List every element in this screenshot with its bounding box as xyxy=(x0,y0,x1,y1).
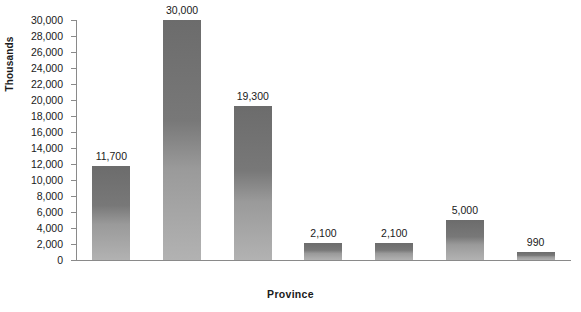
y-tick-label: 4,000 xyxy=(37,222,63,234)
y-tick-label: 6,000 xyxy=(37,206,63,218)
y-tick-label: 18,000 xyxy=(31,110,63,122)
bar-value-label: 30,000 xyxy=(166,4,198,16)
y-tick: 10,000 xyxy=(71,180,76,181)
x-axis-title: Province xyxy=(0,288,581,300)
y-tick-label: 0 xyxy=(57,254,63,266)
y-tick: 6,000 xyxy=(71,212,76,213)
y-tick-label: 2,000 xyxy=(37,238,63,250)
y-axis-line xyxy=(76,20,77,260)
y-tick: 22,000 xyxy=(71,84,76,85)
y-tick-label: 28,000 xyxy=(31,30,63,42)
y-tick-label: 22,000 xyxy=(31,78,63,90)
bar[interactable] xyxy=(163,20,201,260)
plot-area: 02,0004,0006,0008,00010,00012,00014,0001… xyxy=(76,20,571,260)
y-axis-title: Thousands xyxy=(4,4,15,124)
bar-value-label: 990 xyxy=(527,236,545,248)
y-tick: 14,000 xyxy=(71,148,76,149)
bar-chart: Thousands 02,0004,0006,0008,00010,00012,… xyxy=(0,0,581,312)
y-tick: 8,000 xyxy=(71,196,76,197)
y-tick-label: 16,000 xyxy=(31,126,63,138)
bar-value-label: 19,300 xyxy=(237,90,269,102)
y-tick: 18,000 xyxy=(71,116,76,117)
bar-value-label: 11,700 xyxy=(96,150,127,162)
y-tick-label: 10,000 xyxy=(31,174,63,186)
y-tick: 12,000 xyxy=(71,164,76,165)
y-tick-label: 26,000 xyxy=(31,46,63,58)
bar[interactable] xyxy=(375,243,413,260)
bar-value-label: 2,100 xyxy=(381,227,407,239)
bar[interactable] xyxy=(92,166,130,260)
y-tick: 4,000 xyxy=(71,228,76,229)
bar[interactable] xyxy=(446,220,484,260)
y-tick: 30,000 xyxy=(71,20,76,21)
y-tick: 26,000 xyxy=(71,52,76,53)
y-tick-label: 30,000 xyxy=(31,14,63,26)
y-tick-label: 14,000 xyxy=(31,142,63,154)
x-axis-line xyxy=(76,260,571,261)
y-tick: 2,000 xyxy=(71,244,76,245)
y-tick-label: 20,000 xyxy=(31,94,63,106)
y-tick-label: 8,000 xyxy=(37,190,63,202)
y-tick-label: 24,000 xyxy=(31,62,63,74)
bar-value-label: 5,000 xyxy=(452,204,478,216)
y-tick-label: 12,000 xyxy=(31,158,63,170)
bar[interactable] xyxy=(517,252,555,260)
bar[interactable] xyxy=(234,106,272,260)
y-tick: 0 xyxy=(71,260,76,261)
y-tick: 16,000 xyxy=(71,132,76,133)
y-tick: 24,000 xyxy=(71,68,76,69)
bar[interactable] xyxy=(304,243,342,260)
y-tick: 20,000 xyxy=(71,100,76,101)
bar-value-label: 2,100 xyxy=(310,227,336,239)
y-tick: 28,000 xyxy=(71,36,76,37)
